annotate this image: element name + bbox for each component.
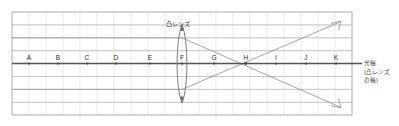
axis-point-label-g: G — [211, 54, 216, 61]
axis-point-label-c: C — [85, 54, 90, 61]
axis-point-label-a: A — [27, 54, 32, 61]
axis-caption-line-2: (凸レンズ — [364, 68, 390, 76]
axis-point-label-e: E — [148, 54, 153, 61]
ray-diagram-svg: 凸レンズ A B C D E F G H I J K 光軸 (凸レンズ の軸) — [0, 0, 399, 126]
axis-caption-line-1: 光軸 — [364, 59, 376, 67]
axis-point-label-d: D — [114, 54, 119, 61]
lens-label: 凸レンズ — [166, 20, 190, 28]
axis-point-label-k: K — [334, 54, 339, 61]
axis-point-label-b: B — [56, 54, 61, 61]
axis-caption-line-3: の軸) — [364, 76, 378, 84]
axis-point-label-h: H — [244, 54, 249, 61]
axis-point-label-j: J — [304, 54, 307, 61]
axis-point-label-i: I — [275, 54, 277, 61]
axis-point-label-f: F — [180, 54, 184, 61]
diagram-canvas: 凸レンズ A B C D E F G H I J K 光軸 (凸レンズ の軸) — [0, 0, 399, 126]
